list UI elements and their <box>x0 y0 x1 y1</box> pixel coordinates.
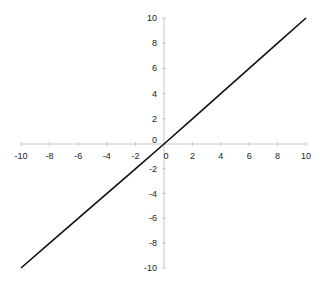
y-tick-label: -4 <box>149 189 157 199</box>
line-chart: -10-8-6-4-20246810 -10-8-6-4-20246810 <box>0 0 326 288</box>
y-tick-label: -6 <box>149 213 157 223</box>
y-tick-label: 10 <box>147 13 157 23</box>
x-tick-label: -10 <box>14 151 27 161</box>
y-tick-label: 0 <box>152 135 157 145</box>
x-tick-label: 0 <box>163 151 168 161</box>
x-tick-labels: -10-8-6-4-20246810 <box>14 151 311 161</box>
x-tick-label: -2 <box>131 151 139 161</box>
y-tick-label: -8 <box>149 238 157 248</box>
y-tick-label: 4 <box>152 89 157 99</box>
x-tick-label: 10 <box>301 151 311 161</box>
x-tick-label: -4 <box>103 151 111 161</box>
y-tick-labels: -10-8-6-4-20246810 <box>144 13 157 273</box>
x-tick-label: 6 <box>247 151 252 161</box>
y-tick-label: 2 <box>152 114 157 124</box>
x-tick-label: 2 <box>190 151 195 161</box>
x-tick-label: -6 <box>74 151 82 161</box>
y-tick-label: 8 <box>152 38 157 48</box>
y-tick-label: 6 <box>152 63 157 73</box>
x-tick-label: 4 <box>218 151 223 161</box>
y-tick-label: -2 <box>149 164 157 174</box>
y-tick-label: -10 <box>144 263 157 273</box>
x-tick-label: -8 <box>46 151 54 161</box>
x-tick-label: 8 <box>275 151 280 161</box>
